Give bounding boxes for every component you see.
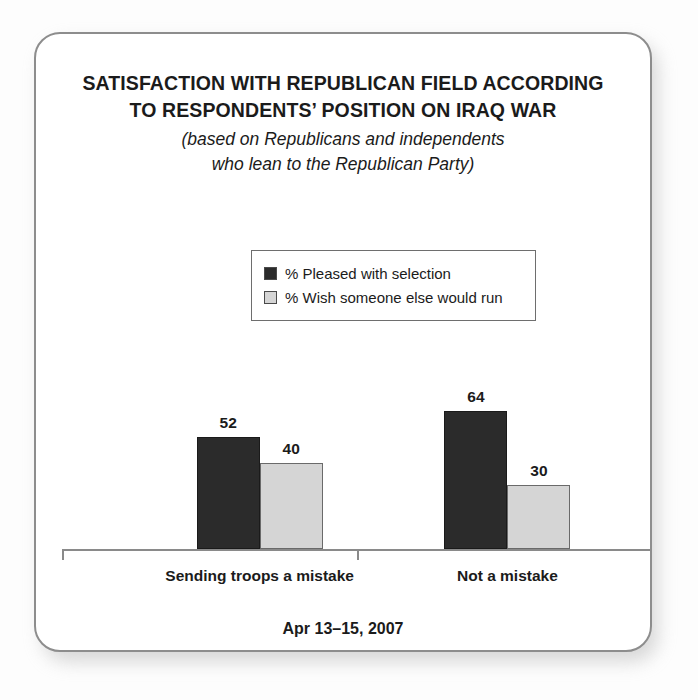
legend-item-pleased: % Pleased with selection: [264, 261, 523, 285]
survey-date-note: Apr 13–15, 2007: [36, 620, 650, 638]
chart-subtitle-line-2: who lean to the Republican Party): [36, 152, 650, 177]
chart-title-line-2: TO RESPONDENTS’ POSITION ON IRAQ WAR: [36, 97, 650, 124]
bars-layer: 52406430: [62, 334, 652, 549]
chart-title-line-1: SATISFACTION WITH REPUBLICAN FIELD ACCOR…: [36, 70, 650, 97]
chart-card: SATISFACTION WITH REPUBLICAN FIELD ACCOR…: [34, 32, 652, 652]
bar-value-label: 40: [250, 440, 333, 458]
legend-label-pleased: % Pleased with selection: [285, 265, 451, 282]
bar-value-label: 52: [187, 414, 270, 432]
bar-value-label: 30: [497, 462, 580, 480]
category-axis: [62, 549, 652, 561]
category-labels: Sending troops a mistakeNot a mistake: [62, 567, 652, 593]
bar-value-label: 64: [434, 388, 517, 406]
legend-item-wish-someone-else: % Wish someone else would run: [264, 285, 523, 309]
chart-legend: % Pleased with selection % Wish someone …: [251, 250, 536, 321]
legend-swatch-dark: [264, 267, 277, 280]
axis-tick-center: [357, 549, 359, 560]
title-block: SATISFACTION WITH REPUBLICAN FIELD ACCOR…: [36, 70, 650, 177]
category-label-1: Sending troops a mistake: [117, 567, 403, 585]
bar-wish-else-1: [260, 463, 323, 549]
axis-tick-left: [62, 549, 64, 560]
axis-tick-right: [651, 549, 653, 560]
screenshot-stage: SATISFACTION WITH REPUBLICAN FIELD ACCOR…: [0, 0, 698, 700]
legend-label-wish-someone-else: % Wish someone else would run: [285, 289, 503, 306]
category-label-2: Not a mistake: [364, 567, 650, 585]
bar-pleased-2: [444, 411, 507, 549]
bar-wish-else-2: [507, 485, 570, 550]
chart-subtitle-line-1: (based on Republicans and independents: [36, 127, 650, 152]
legend-swatch-light: [264, 291, 277, 304]
plot-area: 52406430: [62, 334, 652, 549]
